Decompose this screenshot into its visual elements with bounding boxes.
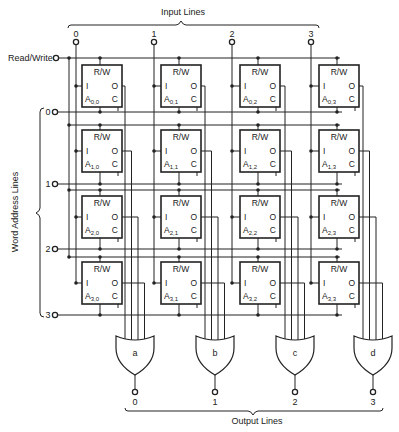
word-address-terminal xyxy=(52,312,57,317)
junction-dot xyxy=(98,110,102,114)
word-address-brace xyxy=(36,108,44,317)
cell-address-subscript: 2,2 xyxy=(249,230,258,236)
gate-label: d xyxy=(370,348,375,358)
input-lines-label: Input Lines xyxy=(161,7,206,17)
junction-dot xyxy=(256,123,260,127)
junction-dot xyxy=(177,247,181,251)
input-line-number: 0 xyxy=(73,29,78,39)
junction-dot xyxy=(152,84,156,88)
cell-output-label: O xyxy=(190,81,197,91)
junction-dot xyxy=(256,188,260,192)
junction-dot xyxy=(335,56,339,60)
cell-control-label: C xyxy=(270,225,276,235)
memory-cell-3-0: R/WIOCA3,0 xyxy=(74,255,144,340)
cell-rw-label: R/W xyxy=(173,67,190,77)
junction-dot xyxy=(98,247,102,251)
input-lines-brace xyxy=(68,21,319,28)
cell-output-wire xyxy=(359,217,376,340)
input-terminal xyxy=(229,39,234,44)
cell-output-label: O xyxy=(348,146,355,156)
output-line-number: 1 xyxy=(212,397,217,407)
cell-address-subscript: 3,1 xyxy=(170,296,179,302)
junction-dot xyxy=(230,215,234,219)
junction-dot xyxy=(67,56,71,60)
junction-dot xyxy=(335,255,339,259)
cell-rw-label: R/W xyxy=(94,264,111,274)
word-address-line-0: 0 xyxy=(45,107,342,117)
cell-rw-label: R/W xyxy=(173,132,190,142)
cell-output-label: O xyxy=(111,146,118,156)
junction-dot xyxy=(335,313,339,317)
junction-dot xyxy=(230,281,234,285)
junction-dot xyxy=(177,182,181,186)
junction-dot xyxy=(335,188,339,192)
cell-control-label: C xyxy=(349,159,355,169)
cell-control-label: C xyxy=(191,159,197,169)
cell-rw-label: R/W xyxy=(252,132,269,142)
cell-control-label: C xyxy=(112,225,118,235)
or-gate-d: d3 xyxy=(354,336,392,407)
input-line-number: 2 xyxy=(229,29,234,39)
cell-control-label: C xyxy=(191,291,197,301)
cell-output-wire xyxy=(280,151,292,340)
junction-dot xyxy=(152,215,156,219)
cell-output-label: O xyxy=(190,212,197,222)
junction-dot xyxy=(74,84,78,88)
junction-dot xyxy=(335,123,339,127)
junction-dot xyxy=(177,123,181,127)
memory-cell-3-1: R/WIOCA3,1 xyxy=(152,255,224,340)
input-line-2: 2 xyxy=(229,29,234,284)
junction-dot xyxy=(309,84,313,88)
cell-rw-label: R/W xyxy=(331,198,348,208)
cell-input-label: I xyxy=(86,212,88,222)
word-address-number: 0 xyxy=(45,107,50,117)
junction-dot xyxy=(98,313,102,317)
cell-address-subscript: 3,2 xyxy=(249,296,258,302)
or-gate-c: c2 xyxy=(276,336,314,407)
output-lines-brace xyxy=(125,408,383,415)
junction-dot xyxy=(74,149,78,153)
cell-control-label: C xyxy=(112,159,118,169)
junction-dot xyxy=(98,188,102,192)
cell-output-label: O xyxy=(269,81,276,91)
cell-input-label: I xyxy=(323,212,325,222)
cell-address-subscript: 0,0 xyxy=(91,99,100,105)
input-line-1: 1 xyxy=(151,29,156,284)
junction-dot xyxy=(67,188,71,192)
cell-input-label: I xyxy=(165,278,167,288)
cell-address-subscript: 0,3 xyxy=(328,99,337,105)
junction-dot xyxy=(256,247,260,251)
output-line-number: 3 xyxy=(370,397,375,407)
cell-output-wire xyxy=(280,217,298,340)
gate-label: b xyxy=(212,348,217,358)
cell-input-label: I xyxy=(323,278,325,288)
cell-address-subscript: 1,2 xyxy=(249,164,258,170)
junction-dot xyxy=(177,56,181,60)
junction-dot xyxy=(309,149,313,153)
word-address-label: Word Address Lines xyxy=(10,171,20,252)
cell-output-label: O xyxy=(348,81,355,91)
junction-dot xyxy=(98,56,102,60)
junction-dot xyxy=(335,110,339,114)
cell-address-subscript: 1,1 xyxy=(170,164,179,170)
cell-input-label: I xyxy=(86,146,88,156)
junction-dot xyxy=(177,188,181,192)
output-terminal xyxy=(292,389,297,394)
cell-input-label: I xyxy=(323,146,325,156)
junction-dot xyxy=(177,255,181,259)
input-lines-header: Input Lines xyxy=(68,7,319,28)
cell-rw-label: R/W xyxy=(331,132,348,142)
cell-control-label: C xyxy=(349,225,355,235)
cell-output-wire xyxy=(359,151,370,340)
input-terminal xyxy=(308,39,313,44)
junction-dot xyxy=(309,281,313,285)
read-write-terminal xyxy=(53,55,58,60)
cell-output-label: O xyxy=(348,278,355,288)
input-terminal xyxy=(73,39,78,44)
word-address-number: 3 xyxy=(45,310,50,320)
cell-output-label: O xyxy=(269,146,276,156)
cell-input-label: I xyxy=(165,212,167,222)
cell-output-wire xyxy=(280,283,305,340)
junction-dot xyxy=(177,110,181,114)
cell-output-wire xyxy=(122,217,138,340)
